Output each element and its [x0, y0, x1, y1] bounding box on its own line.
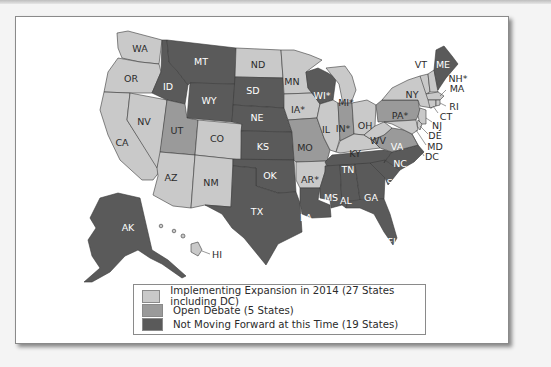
label-ME: ME: [436, 59, 450, 70]
label-WY: WY: [201, 95, 216, 106]
state-HI: [191, 242, 202, 256]
hi-island: [159, 224, 163, 228]
label-IL: IL: [322, 124, 331, 135]
label-TN: TN: [341, 164, 355, 175]
legend-swatch-dark: [142, 318, 163, 331]
label-OR: OR: [124, 73, 138, 84]
label-NY: NY: [406, 89, 419, 100]
legend-item-not-moving: Not Moving Forward at this Time (19 Stat…: [142, 317, 398, 331]
label-WV: WV: [370, 135, 386, 146]
hi-island: [181, 234, 185, 238]
label-DC: DC: [425, 151, 439, 162]
label-OK: OK: [263, 170, 277, 181]
legend-label: Open Debate (5 States): [173, 305, 294, 316]
label-KS: KS: [257, 141, 269, 152]
label-NC: NC: [393, 158, 407, 169]
label-MS: MS: [324, 192, 338, 203]
label-LA: LA: [300, 212, 313, 223]
ct-leader: [433, 106, 438, 113]
hi-leader: [202, 251, 210, 254]
de-leader: [420, 126, 428, 134]
label-SD: SD: [246, 85, 259, 96]
ri-leader: [440, 103, 446, 106]
label-SC: SC: [387, 177, 400, 188]
label-VT: VT: [415, 59, 427, 70]
legend-swatch-light: [142, 290, 160, 303]
legend-swatch-medium: [142, 304, 163, 317]
label-AR: AR*: [301, 174, 319, 185]
label-UT: UT: [171, 125, 184, 136]
state-RI: [436, 100, 440, 106]
label-MT: MT: [194, 56, 208, 67]
label-AZ: AZ: [164, 172, 177, 183]
label-HI: HI: [212, 249, 222, 260]
label-CO: CO: [210, 133, 224, 144]
legend-item-open-debate: Open Debate (5 States): [142, 303, 294, 317]
label-MN: MN: [284, 76, 299, 87]
label-OH: OH: [358, 120, 373, 131]
label-ND: ND: [251, 59, 265, 70]
label-MO: MO: [297, 142, 313, 153]
hi-island: [172, 229, 176, 233]
label-MI: MI*: [338, 97, 354, 108]
label-FL: FL: [388, 236, 399, 247]
md-leader: [416, 130, 426, 145]
label-NM: NM: [203, 177, 218, 188]
label-ID: ID: [163, 81, 173, 92]
label-NV: NV: [137, 116, 151, 127]
state-AK: [84, 193, 186, 282]
label-WI: WI*: [314, 90, 331, 101]
label-PA: PA*: [392, 110, 409, 121]
label-GA: GA: [364, 192, 378, 203]
legend-item-implementing: Implementing Expansion in 2014 (27 State…: [142, 289, 425, 303]
label-MA: MA: [450, 83, 465, 94]
label-DE: DE: [428, 130, 441, 141]
map-legend: Implementing Expansion in 2014 (27 State…: [133, 284, 426, 335]
label-IA: IA*: [291, 104, 305, 115]
label-IN: IN*: [336, 123, 351, 134]
label-TX: TX: [250, 206, 264, 217]
label-KY: KY: [349, 148, 361, 159]
label-AK: AK: [122, 222, 135, 233]
legend-label: Not Moving Forward at this Time (19 Stat…: [173, 319, 398, 330]
label-NE: NE: [250, 112, 263, 123]
label-VA: VA: [391, 141, 404, 152]
label-CA: CA: [115, 137, 129, 148]
label-WA: WA: [132, 43, 148, 54]
label-AL: AL: [340, 195, 352, 206]
